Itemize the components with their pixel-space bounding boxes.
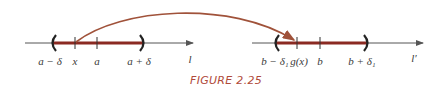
right-number-line xyxy=(252,35,423,51)
label-g-of-x: g(x) xyxy=(290,55,308,67)
label-a: a xyxy=(94,55,100,67)
figure-caption: FIGURE 2.25 xyxy=(190,74,262,87)
mapping-arrow-icon xyxy=(76,13,294,42)
label-x: x xyxy=(73,55,78,67)
label-b-plus-delta1: b + δ₁ xyxy=(348,55,375,67)
label-b: b xyxy=(317,55,323,67)
label-line-l-prime: l′ xyxy=(411,52,416,64)
label-a-plus-delta: a + δ xyxy=(127,55,151,67)
left-number-line xyxy=(25,35,193,51)
label-line-l: l xyxy=(188,53,191,65)
label-a-minus-delta: a − δ xyxy=(38,55,62,67)
figure-2-25: a − δ x a a + δ l b − δ₁ g(x) b b + δ₁ l… xyxy=(0,0,447,93)
label-b-minus-delta1: b − δ₁ xyxy=(261,55,288,67)
